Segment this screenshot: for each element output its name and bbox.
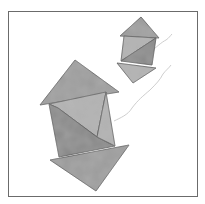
small-arrow — [117, 17, 159, 83]
small-arrow-top-triangle — [120, 17, 159, 38]
tangram-canvas — [0, 0, 205, 204]
large-arrow — [40, 60, 129, 191]
figures — [40, 17, 159, 191]
small-arrow-bottom-triangle — [117, 63, 156, 83]
